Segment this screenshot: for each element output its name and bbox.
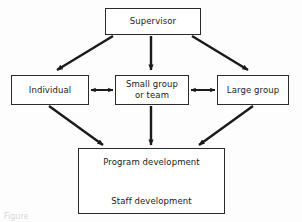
node-small-group-label: Small group or team	[126, 79, 178, 101]
node-supervisor-label: Supervisor	[130, 16, 176, 27]
edge-supervisor-to-individual	[57, 36, 113, 70]
edge-individual-to-development	[49, 106, 103, 145]
figure-container: Supervisor Individual Small group or tea…	[0, 0, 302, 222]
node-small-group[interactable]: Small group or team	[115, 75, 189, 105]
node-large-group-label: Large group	[227, 85, 279, 96]
node-individual-label: Individual	[29, 85, 71, 96]
node-large-group[interactable]: Large group	[217, 75, 289, 105]
node-individual[interactable]: Individual	[11, 75, 89, 105]
staff-development-label: Staff development	[79, 196, 224, 207]
node-supervisor[interactable]: Supervisor	[105, 8, 201, 35]
edge-supervisor-to-large-group	[192, 36, 248, 70]
edge-large-group-to-development	[199, 106, 253, 145]
figure-caption: Figure	[4, 212, 28, 221]
program-development-label: Program development	[79, 157, 224, 168]
node-development[interactable]: Program development Staff development	[78, 148, 225, 214]
